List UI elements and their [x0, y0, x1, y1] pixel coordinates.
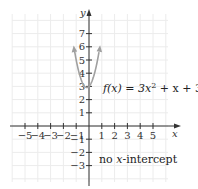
y-tick-label: 6 [79, 41, 85, 52]
annotation-post: -intercept [122, 153, 177, 166]
y-tick-label: 1 [79, 107, 85, 118]
function-label-pre: f(x) = 3x [102, 82, 152, 95]
y-tick-label: 2 [79, 94, 85, 105]
parabola-chart: −5−4−3−2−112345−3−2−11234567 y x f(x) = … [0, 0, 198, 189]
function-label: f(x) = 3x2 + x + 3 [102, 81, 198, 95]
y-tick-label: 7 [79, 28, 85, 39]
x-tick-label: 5 [150, 130, 156, 141]
annotation-pre: no [99, 153, 116, 166]
y-axis-arrow-icon [87, 9, 92, 16]
x-tick-label: 2 [111, 130, 117, 141]
y-tick-label: −3 [70, 160, 85, 171]
no-x-intercept-note: no x-intercept [99, 153, 178, 166]
y-tick-label: 5 [79, 55, 85, 66]
function-label-post: + x + 3 [156, 82, 198, 95]
y-tick-label: −1 [70, 134, 85, 145]
y-tick-label: −2 [70, 147, 85, 158]
x-tick-label: 4 [137, 130, 143, 141]
x-tick-label: 3 [124, 130, 130, 141]
x-axis-label: x [172, 128, 178, 139]
x-tick-label: 1 [99, 130, 105, 141]
y-axis-label: y [79, 7, 86, 18]
x-tick-label: −2 [56, 130, 71, 141]
